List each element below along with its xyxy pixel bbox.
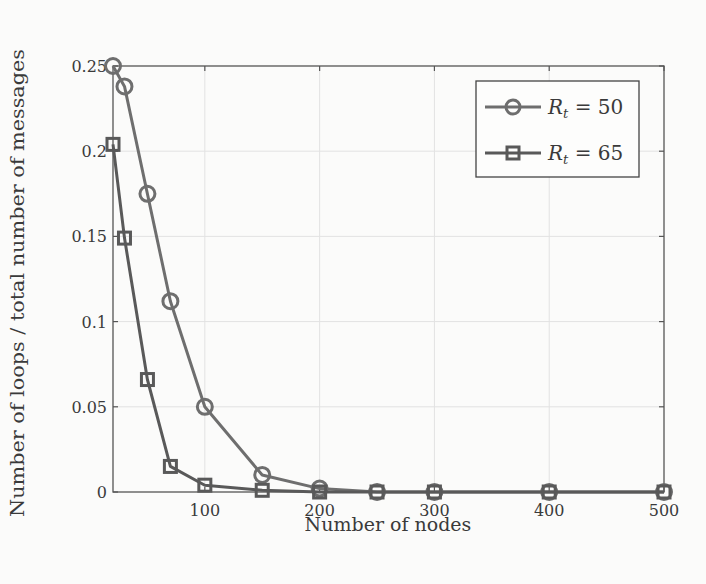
- x-tick-label: 100: [190, 501, 221, 520]
- y-tick-label: 0.1: [82, 313, 107, 332]
- x-tick-label: 400: [534, 501, 565, 520]
- y-tick-label: 0.15: [71, 227, 107, 246]
- x-axis-label: Number of nodes: [305, 513, 472, 535]
- y-tick-label: 0: [97, 483, 107, 502]
- x-tick-label: 500: [649, 501, 680, 520]
- y-tick-label: 0.25: [71, 57, 107, 76]
- legend-label-rest: = 50: [568, 95, 623, 119]
- svg-text:Rt = 65: Rt = 65: [547, 141, 623, 167]
- legend-label-main: R: [547, 141, 563, 165]
- y-tick-label: 0.05: [71, 398, 107, 417]
- legend-label-main: R: [547, 95, 563, 119]
- line-chart: 10020030040050000.050.10.150.20.25 Numbe…: [0, 0, 706, 584]
- y-tick-label: 0.2: [82, 142, 107, 161]
- series-line: [113, 144, 664, 492]
- svg-text:Rt = 50: Rt = 50: [547, 95, 623, 121]
- legend: Rt = 50 Rt = 65: [476, 81, 639, 177]
- legend-label-rest: = 65: [568, 141, 623, 165]
- y-axis-label: Number of loops / total number of messag…: [6, 49, 28, 517]
- series-rt65: [107, 138, 670, 498]
